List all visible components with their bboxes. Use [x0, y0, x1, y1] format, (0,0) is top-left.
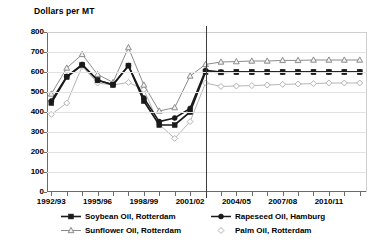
data-point-open-triangle	[187, 73, 193, 78]
data-point-open-diamond	[218, 83, 224, 89]
data-point-filled-square	[172, 123, 177, 128]
data-point-filled-square	[111, 83, 116, 88]
y-tick-label: 500	[18, 88, 44, 96]
oilseed-price-chart: Dollars per MT 0100200300400500600700800…	[0, 0, 391, 245]
x-tick-mark	[236, 192, 237, 196]
x-tick-label: 1998/99	[129, 197, 158, 206]
data-point-filled-square	[69, 214, 74, 219]
x-tick-mark	[144, 192, 145, 196]
x-tick-mark	[190, 192, 191, 196]
data-point-open-diamond	[218, 227, 224, 233]
y-tick-mark	[44, 152, 47, 153]
gridline	[47, 172, 367, 173]
legend-key-open-triangle-icon	[60, 225, 82, 236]
y-tick-mark	[44, 112, 47, 113]
data-point-filled-square	[141, 99, 146, 104]
x-tick-label: 1995/96	[83, 197, 112, 206]
data-point-open-diamond	[310, 81, 316, 87]
plot-area	[47, 32, 367, 192]
legend-item[interactable]: Soybean Oil, Rotterdam	[60, 209, 210, 223]
legend-item[interactable]: Palm Oil, Rotterdam	[210, 223, 350, 237]
x-tick-mark	[82, 192, 83, 196]
y-tick-mark	[44, 192, 47, 193]
gridline	[47, 32, 367, 33]
data-point-open-triangle	[141, 82, 147, 87]
x-tick-mark	[298, 192, 299, 196]
y-tick-mark	[44, 32, 47, 33]
x-tick-label: 2007/08	[268, 197, 297, 206]
x-tick-mark	[113, 192, 114, 196]
x-tick-mark	[252, 192, 253, 196]
x-tick-mark	[221, 192, 222, 196]
data-point-open-triangle	[172, 105, 178, 110]
x-tick-mark	[67, 192, 68, 196]
y-tick-label: 0	[18, 188, 44, 196]
x-tick-mark	[175, 192, 176, 196]
legend-key-open-diamond-icon	[210, 225, 232, 236]
x-tick-mark	[344, 192, 345, 196]
data-point-open-diamond	[341, 80, 347, 86]
x-tick-label: 2004/05	[222, 197, 251, 206]
y-tick-label: 700	[18, 48, 44, 56]
x-tick-mark	[128, 192, 129, 196]
data-point-filled-square	[49, 101, 54, 106]
x-tick-label: 2010/11	[315, 197, 343, 206]
y-tick-mark	[44, 52, 47, 53]
y-tick-label: 200	[18, 148, 44, 156]
legend-label: Sunflower Oil, Rotterdam	[85, 226, 181, 235]
data-point-open-diamond	[125, 79, 131, 85]
data-point-filled-square	[126, 63, 131, 68]
legend-item[interactable]: Rapeseed Oil, Hamburg	[210, 209, 350, 223]
x-tick-mark	[283, 192, 284, 196]
y-axis-title: Dollars per MT	[34, 6, 94, 16]
data-point-open-diamond	[249, 83, 255, 89]
data-point-open-triangle	[126, 45, 132, 50]
x-tick-mark	[329, 192, 330, 196]
data-point-filled-circle	[219, 214, 224, 219]
gridline	[47, 72, 367, 73]
y-axis-ticks: 0100200300400500600700800	[0, 32, 44, 192]
gridline	[47, 52, 367, 53]
y-tick-label: 300	[18, 128, 44, 136]
y-tick-label: 600	[18, 68, 44, 76]
data-point-open-diamond	[295, 81, 301, 87]
x-tick-label: 1992/93	[37, 197, 66, 206]
gridline	[47, 152, 367, 153]
gridline	[47, 112, 367, 113]
gridline	[47, 132, 367, 133]
y-tick-label: 100	[18, 168, 44, 176]
y-tick-mark	[44, 172, 47, 173]
y-tick-mark	[44, 92, 47, 93]
x-tick-mark	[98, 192, 99, 196]
chart-legend: Soybean Oil, RotterdamRapeseed Oil, Hamb…	[60, 209, 350, 237]
y-tick-mark	[44, 72, 47, 73]
x-tick-label: 2001/02	[176, 197, 205, 206]
legend-label: Soybean Oil, Rotterdam	[85, 212, 176, 221]
y-tick-label: 800	[18, 28, 44, 36]
x-tick-mark	[267, 192, 268, 196]
x-tick-mark	[51, 192, 52, 196]
legend-item[interactable]: Sunflower Oil, Rotterdam	[60, 223, 210, 237]
gridline	[47, 92, 367, 93]
data-point-filled-square	[80, 63, 85, 68]
x-tick-mark	[313, 192, 314, 196]
y-tick-mark	[44, 132, 47, 133]
data-point-open-diamond	[233, 83, 239, 89]
x-tick-mark	[159, 192, 160, 196]
data-point-filled-square	[95, 78, 100, 83]
legend-key-filled-circle-icon	[210, 211, 232, 222]
legend-key-filled-square-icon	[60, 211, 82, 222]
x-tick-mark	[360, 192, 361, 196]
data-point-open-diamond	[357, 80, 363, 86]
projection-divider	[206, 26, 207, 198]
legend-label: Palm Oil, Rotterdam	[235, 226, 311, 235]
data-point-filled-circle	[172, 116, 177, 121]
data-point-filled-square	[157, 123, 162, 128]
data-point-open-diamond	[280, 81, 286, 87]
data-point-filled-square	[64, 75, 69, 80]
y-tick-label: 400	[18, 108, 44, 116]
data-point-open-diamond	[326, 80, 332, 86]
data-point-open-diamond	[264, 82, 270, 88]
legend-label: Rapeseed Oil, Hamburg	[235, 212, 325, 221]
